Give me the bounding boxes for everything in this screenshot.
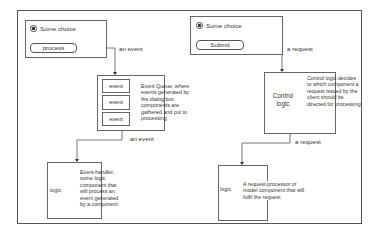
right-arrow1-label: a request — [287, 45, 313, 52]
request-processor-label: logic — [220, 186, 231, 192]
submit-button[interactable]: Submit — [196, 40, 244, 50]
request-processor-description: A request-processor or model component t… — [243, 181, 305, 200]
control-logic-label: Control logic — [266, 92, 300, 108]
right-radio-label: Some choice — [206, 22, 242, 29]
event-queue-cell: event — [102, 79, 130, 93]
event-queue-cell: event — [102, 95, 130, 110]
right-arrow2-label: a request — [295, 138, 321, 145]
process-button[interactable]: process — [30, 43, 77, 53]
right-radio-button[interactable] — [196, 22, 203, 29]
left-arrow1-label: an event — [119, 45, 143, 52]
event-handler-description: Event-handler, some logic component that… — [80, 169, 122, 207]
left-radio-button[interactable] — [30, 25, 37, 32]
left-radio-label: Some choice — [40, 25, 76, 32]
event-queue-description: Event Queue, where events generated by t… — [141, 83, 191, 121]
control-logic-description: Control logic decides to which component… — [307, 75, 361, 107]
event-queue-cell: event — [102, 112, 130, 126]
event-handler-label: logic — [50, 187, 61, 193]
left-arrow2-label: an event — [130, 135, 154, 142]
